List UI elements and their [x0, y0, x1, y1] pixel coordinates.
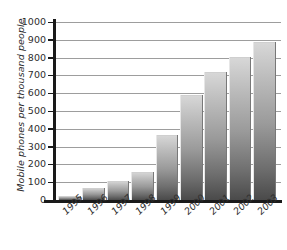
y-tick-mark	[48, 182, 56, 184]
y-tick-mark	[48, 57, 56, 59]
y-tick-mark	[48, 128, 56, 130]
x-tick-label: 1997	[109, 192, 134, 217]
y-tick-mark	[48, 111, 56, 113]
y-tick-mark	[48, 146, 56, 148]
x-tick-label: 2002	[231, 192, 256, 217]
x-tick-label: 2000	[182, 192, 207, 217]
x-tick-label: 1999	[158, 192, 183, 217]
y-tick-mark	[48, 164, 56, 166]
x-tick-label: 1995	[60, 192, 85, 217]
x-tick-label: 1996	[85, 192, 110, 217]
x-axis-tick-labels: 199519961997199819992000200120022003	[0, 0, 287, 250]
x-tick-label: 2003	[255, 192, 280, 217]
y-tick-mark	[48, 200, 56, 202]
x-tick-label: 2001	[207, 192, 232, 217]
bar-chart: Mobile phones per thousand people 010020…	[0, 0, 287, 250]
x-tick-label: 1998	[133, 192, 158, 217]
y-tick-mark	[48, 39, 56, 41]
y-tick-mark	[48, 75, 56, 77]
y-tick-mark	[48, 93, 56, 95]
y-tick-mark	[48, 22, 56, 24]
